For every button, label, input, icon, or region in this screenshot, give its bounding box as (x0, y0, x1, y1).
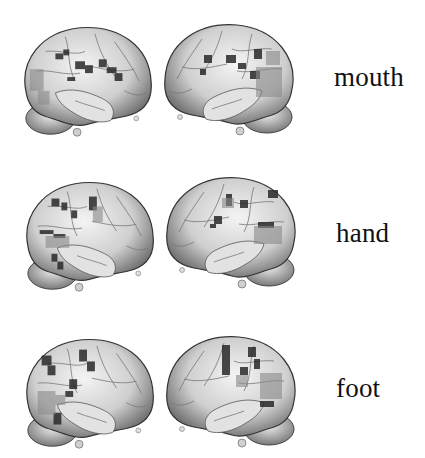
figure-row-foot: foot (0, 320, 425, 458)
row-label-mouth: mouth (334, 62, 404, 93)
brain-left-lateral-icon (18, 175, 156, 297)
brain-left-lateral-icon (16, 20, 154, 142)
brain-right-lateral-icon (164, 330, 304, 452)
figure-row-hand: hand (0, 165, 425, 315)
brain-right-lateral-icon (162, 18, 302, 140)
figure-row-mouth: mouth (0, 12, 425, 162)
row-label-foot: foot (336, 373, 380, 404)
brain-left-lateral-icon (18, 332, 156, 454)
brain-right-lateral-icon (164, 171, 304, 293)
row-label-hand: hand (336, 218, 389, 249)
